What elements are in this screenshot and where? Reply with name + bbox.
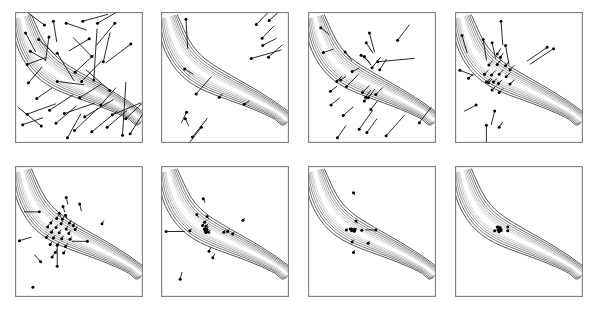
particle-marker: [367, 242, 370, 245]
particle-marker: [21, 123, 24, 126]
particle-marker: [385, 134, 388, 137]
particle-marker: [498, 91, 501, 94]
particle-marker: [345, 85, 348, 88]
particle-marker: [67, 232, 70, 235]
particle-marker: [83, 115, 86, 118]
particle-marker: [505, 75, 508, 78]
particle-marker: [498, 126, 501, 129]
panel-iteration-6: [161, 166, 289, 297]
particle-marker: [58, 231, 61, 234]
particle-marker: [62, 252, 65, 255]
particle-marker: [345, 228, 348, 231]
particle-marker: [493, 109, 496, 112]
particle-marker: [69, 238, 72, 241]
particle-marker: [56, 80, 59, 83]
particle-marker: [363, 100, 366, 103]
particle-marker: [352, 191, 355, 194]
particle-marker: [492, 81, 495, 84]
particle-marker: [546, 46, 549, 49]
panel-iteration-4: [455, 12, 583, 143]
particle-marker: [64, 214, 67, 217]
particle-marker: [352, 251, 355, 254]
particle-marker: [461, 34, 464, 37]
particle-marker: [48, 109, 51, 112]
particle-marker: [493, 229, 496, 232]
particle-marker: [56, 52, 59, 55]
particle-marker: [499, 56, 502, 59]
particle-marker: [360, 229, 363, 232]
particle-marker: [27, 81, 30, 84]
particle-marker: [108, 89, 111, 92]
panel-iteration-5: [15, 166, 143, 297]
particle-marker: [45, 236, 48, 239]
particle-marker: [121, 134, 124, 137]
particle-marker: [191, 136, 194, 139]
particle-marker: [74, 228, 77, 231]
particle-marker: [351, 70, 354, 73]
particle-marker: [483, 73, 486, 76]
particle-marker: [65, 22, 68, 25]
particle-marker: [92, 79, 95, 82]
particle-marker: [58, 212, 61, 215]
particle-marker: [74, 71, 77, 74]
particle-marker: [500, 20, 503, 23]
particle-marker: [18, 239, 21, 242]
particle-marker: [78, 96, 81, 99]
particle-marker: [185, 111, 188, 114]
particle-marker: [482, 38, 485, 41]
particle-marker: [113, 22, 116, 25]
particle-marker: [31, 286, 34, 289]
particle-marker: [261, 44, 264, 47]
particle-marker: [231, 233, 234, 236]
particle-marker: [49, 243, 52, 246]
particle-marker: [490, 73, 493, 76]
particle-marker: [183, 67, 186, 70]
particle-marker: [361, 91, 364, 94]
particle-marker: [497, 82, 500, 85]
particle-marker: [365, 41, 368, 44]
particle-marker: [106, 126, 109, 129]
particle-marker: [54, 226, 57, 229]
particle-marker: [374, 93, 377, 96]
particle-marker: [66, 136, 69, 139]
particle-marker: [496, 63, 499, 66]
particle-marker: [496, 52, 499, 55]
particle-marker: [204, 231, 207, 234]
particle-marker: [24, 31, 27, 34]
particle-marker: [506, 225, 509, 228]
particle-marker: [207, 231, 210, 234]
particle-marker: [365, 131, 368, 134]
particle-marker: [49, 221, 52, 224]
particle-marker: [60, 237, 63, 240]
particle-marker: [509, 68, 512, 71]
particle-marker: [369, 108, 372, 111]
particle-marker: [38, 210, 41, 213]
panel-iteration-3: [308, 12, 436, 143]
particle-marker: [339, 79, 342, 82]
particle-marker: [63, 112, 66, 115]
particle-marker: [60, 222, 63, 225]
particle-marker: [65, 196, 68, 199]
panel-iteration-1: [15, 12, 143, 143]
particle-marker: [261, 37, 264, 40]
particle-marker: [101, 222, 104, 225]
particle-marker: [475, 104, 478, 107]
particle-marker: [268, 19, 271, 22]
particle-marker: [211, 256, 214, 259]
particle-marker: [55, 217, 58, 220]
particle-marker: [322, 51, 325, 54]
particle-marker: [37, 38, 40, 41]
particle-marker: [330, 104, 333, 107]
particle-marker: [552, 47, 555, 50]
particle-marker: [68, 221, 71, 224]
particle-marker: [363, 55, 366, 58]
particle-marker: [319, 26, 322, 29]
particle-marker: [65, 227, 68, 230]
particle-marker: [241, 219, 244, 222]
particle-marker: [509, 83, 512, 86]
particle-marker: [188, 229, 191, 232]
particle-marker: [195, 213, 198, 216]
particle-marker: [40, 124, 43, 127]
particle-marker: [61, 218, 64, 221]
particle-marker: [243, 103, 246, 106]
